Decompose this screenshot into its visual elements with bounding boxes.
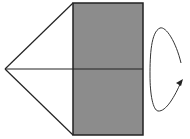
revolution-diagram <box>0 0 190 139</box>
